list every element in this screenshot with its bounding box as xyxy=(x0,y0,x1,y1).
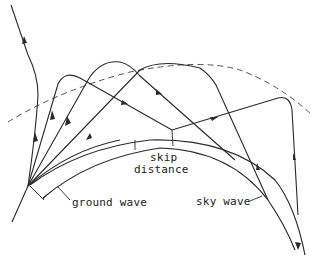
propagation-diagram: skip distance ground wave sky wave xyxy=(0,0,314,260)
diagram-svg xyxy=(0,0,314,260)
arrow-icon xyxy=(33,132,38,142)
escaping-ray xyxy=(11,5,38,186)
ground-wave-leader xyxy=(58,187,70,200)
sky-wave-leader xyxy=(250,196,262,201)
arrow-icon xyxy=(210,117,218,121)
sky-ray-3 xyxy=(28,63,268,200)
ground-wave-label: ground wave xyxy=(72,197,147,209)
arrow-icon xyxy=(295,242,301,250)
sky-wave-label: sky wave xyxy=(196,196,251,208)
arrow-icon xyxy=(256,163,260,170)
ground-wave-ray xyxy=(28,140,120,186)
distance-label: distance xyxy=(134,164,189,176)
arrow-icon xyxy=(156,89,162,95)
arrow-icon xyxy=(86,133,92,140)
ground-wave-bracket xyxy=(30,186,48,200)
skip-marker-right xyxy=(172,130,173,146)
arrow-icon xyxy=(65,116,71,126)
arrow-icon xyxy=(50,110,55,120)
ground-extension xyxy=(12,186,28,222)
